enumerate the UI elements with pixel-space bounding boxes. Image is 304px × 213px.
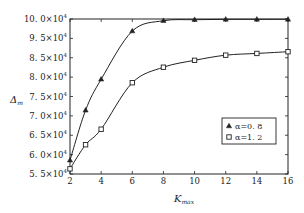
x-axis-title: Kmax	[173, 193, 195, 205]
x-tick-label: 10	[189, 176, 200, 186]
square-marker	[224, 53, 228, 57]
y-tick-label: 7. 0×104	[29, 110, 67, 121]
x-tick-label: 16	[283, 176, 294, 186]
square-marker	[99, 127, 103, 131]
y-tick-label: 7. 5×104	[29, 91, 67, 102]
square-marker	[83, 143, 87, 147]
y-tick-label: 9. 5×104	[29, 32, 67, 43]
square-marker	[130, 81, 134, 85]
y-tick-label: 6. 0×104	[29, 149, 67, 160]
x-tick-label: 2	[67, 176, 72, 186]
triangle-marker	[67, 157, 72, 162]
legend: α=0. 8α=1. 2	[222, 118, 276, 144]
plot-frame	[70, 19, 288, 174]
square-marker	[68, 167, 72, 171]
y-tick-label: 10. 0×104	[24, 13, 68, 24]
legend-label: α=1. 2	[235, 133, 262, 142]
y-tick-label: 5. 5×104	[29, 168, 67, 179]
triangle-marker	[83, 107, 88, 112]
y-tick-label: 6. 5×104	[29, 129, 67, 140]
x-tick-label: 8	[161, 176, 166, 186]
data-series	[67, 17, 290, 171]
axis-ticks: 24681012141610. 0×1049. 5×1048. 5×1048. …	[24, 13, 293, 186]
square-marker	[161, 65, 165, 69]
x-tick-label: 6	[130, 176, 135, 186]
square-marker	[255, 51, 259, 55]
x-tick-label: 14	[251, 176, 262, 186]
plot-axes	[70, 19, 288, 174]
line-chart: 24681012141610. 0×1049. 5×1048. 5×1048. …	[0, 0, 304, 213]
y-tick-label: 8. 0×104	[29, 71, 67, 82]
square-marker	[286, 50, 290, 54]
square-marker	[192, 58, 196, 62]
triangle-marker	[99, 76, 104, 81]
x-tick-label: 12	[220, 176, 231, 186]
legend-label: α=0. 8	[235, 122, 262, 131]
x-tick-label: 4	[98, 176, 103, 186]
series-alpha-1-2	[68, 50, 290, 172]
y-axis-title: Δm	[9, 94, 23, 106]
y-tick-label: 8. 5×104	[29, 52, 67, 63]
square-marker	[227, 135, 231, 139]
